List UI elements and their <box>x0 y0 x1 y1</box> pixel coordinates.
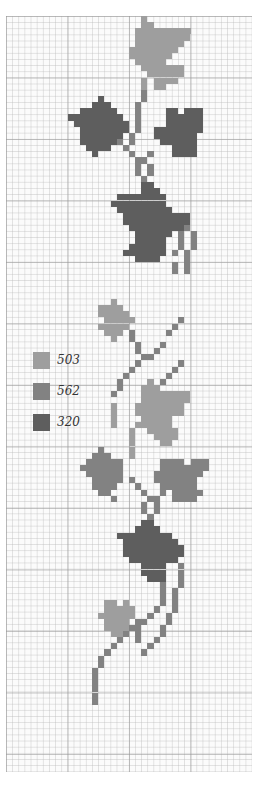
swatch-503 <box>33 352 50 369</box>
stitch-run <box>160 600 166 606</box>
stitch-run <box>166 373 172 379</box>
stitch-run <box>154 637 160 643</box>
stitch-run <box>178 360 184 366</box>
stitch-run <box>141 649 147 655</box>
stitch-run <box>154 84 166 90</box>
stitch-run <box>147 151 153 157</box>
stitch-run <box>98 662 104 668</box>
stitch-run <box>147 613 153 619</box>
stitch-run <box>111 336 117 342</box>
legend-label-503: 503 <box>57 352 80 369</box>
stitch-run <box>172 151 197 157</box>
legend-item-503: 503 <box>33 352 113 372</box>
stitch-run <box>117 385 123 391</box>
stitch-run <box>154 606 160 612</box>
stitch-run <box>147 643 153 649</box>
stitch-run <box>104 649 110 655</box>
legend-item-562: 562 <box>33 383 113 403</box>
stitch-run <box>160 342 166 348</box>
stitch-run <box>92 151 98 157</box>
stitch-run <box>111 631 123 637</box>
stitch-run <box>141 619 147 625</box>
stitch-run <box>123 373 129 379</box>
stitch-run <box>178 317 184 323</box>
swatch-562 <box>33 383 50 400</box>
stitch-run <box>172 250 178 256</box>
stitch-run <box>160 490 166 496</box>
stitch-run <box>117 637 123 643</box>
stitch-run <box>123 631 129 637</box>
stitch-run <box>184 268 190 274</box>
stitch-run <box>129 139 135 145</box>
stitch-run <box>111 643 117 649</box>
stitch-run <box>160 440 172 446</box>
stitch-run <box>135 127 141 133</box>
stitch-run <box>86 145 111 151</box>
stitch-run <box>154 348 160 354</box>
stitch-run <box>191 244 197 250</box>
legend-label-562: 562 <box>57 383 80 400</box>
stitch-run <box>166 619 172 625</box>
stitch-run <box>172 496 197 502</box>
legend-label-320: 320 <box>57 414 80 431</box>
stitch-run <box>166 330 172 336</box>
stitch-run <box>92 699 98 705</box>
stitch-run <box>147 354 153 360</box>
stitch-run <box>141 96 147 102</box>
stitch-run <box>172 219 178 225</box>
stitch-run <box>172 367 178 373</box>
stitch-run <box>135 637 141 643</box>
stitch-run <box>135 360 141 366</box>
stitch-run <box>172 268 178 274</box>
stitch-run <box>147 170 153 176</box>
stitch-run <box>178 582 184 588</box>
stitch-run <box>98 490 110 496</box>
stitch-run <box>160 379 166 385</box>
swatch-320 <box>33 414 50 431</box>
stitch-run <box>129 367 135 373</box>
stitch-run <box>154 508 160 514</box>
stitch-run <box>129 453 135 459</box>
stitch-run <box>172 606 178 612</box>
stitch-run <box>111 496 117 502</box>
stitch-run <box>160 631 166 637</box>
stitch-run <box>135 256 160 262</box>
legend-item-320: 320 <box>33 414 113 434</box>
stitch-run <box>135 422 141 428</box>
stitch-run <box>172 324 178 330</box>
